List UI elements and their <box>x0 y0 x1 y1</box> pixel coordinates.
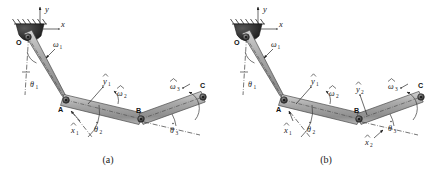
svg-text:θ: θ <box>170 126 174 135</box>
label-x-axis-a: x <box>60 19 65 29</box>
label-y-axis-a: y <box>44 4 49 14</box>
omega1-leader-a <box>46 49 55 58</box>
label-joint-A-a: A <box>58 105 63 114</box>
caption-panel-a: (a) <box>102 154 113 166</box>
label-theta3-b: θ 3 <box>388 121 397 134</box>
svg-text:2: 2 <box>370 142 373 148</box>
mechanism-figure: y x O A B C ω 1 θ 1 y 1 x 1 <box>0 0 436 173</box>
svg-text:y: y <box>102 76 107 86</box>
ground-hatching-b <box>231 19 266 24</box>
caption-panel-b: (b) <box>320 154 332 166</box>
joint-O-a <box>25 34 32 41</box>
label-omegahat2-a: ω 2 <box>117 86 127 99</box>
label-joint-O-b: O <box>234 38 240 47</box>
label-omegahat2-b: ω 2 <box>329 86 339 99</box>
svg-text:ω: ω <box>53 40 59 49</box>
label-joint-A-b: A <box>276 105 281 114</box>
svg-text:θ: θ <box>388 124 392 133</box>
link-2-b <box>279 95 362 125</box>
svg-text:1: 1 <box>76 130 79 136</box>
link-1-b <box>242 30 288 105</box>
svg-text:2: 2 <box>100 129 103 135</box>
svg-text:θ: θ <box>94 125 98 134</box>
joint-A-b <box>281 97 288 104</box>
label-yhat1-b: y 1 <box>310 74 319 87</box>
svg-text:y: y <box>310 76 315 86</box>
label-theta1-a: θ 1 <box>30 80 39 90</box>
label-joint-C-a: C <box>200 81 205 90</box>
svg-text:1: 1 <box>278 44 281 50</box>
yhat1-axis-a <box>88 87 103 104</box>
panel-a: y x O A B C ω 1 θ 1 y 1 x 1 <box>13 4 207 166</box>
svg-text:ω: ω <box>388 82 394 91</box>
svg-text:2: 2 <box>124 93 127 99</box>
svg-text:3: 3 <box>394 128 397 134</box>
theta1-arc-a <box>27 52 36 63</box>
label-theta3-a: θ 3 <box>170 123 179 136</box>
label-omega1-a: ω 1 <box>53 40 63 50</box>
label-joint-C-b: C <box>418 81 423 90</box>
svg-text:1: 1 <box>254 84 257 90</box>
label-omega1-b: ω 1 <box>271 40 281 50</box>
omega1-leader-b <box>264 49 273 58</box>
joint-O-b <box>243 34 250 41</box>
vertical-reference-b <box>243 38 247 95</box>
theta3-arc-a <box>172 114 176 126</box>
svg-text:1: 1 <box>289 130 292 136</box>
joint-B-b <box>356 116 363 123</box>
joint-C-a <box>200 94 207 101</box>
panel-b: y x O A B C ω 1 θ 1 y 1 x 1 <box>231 4 425 166</box>
xhat1-leader-b <box>289 111 293 121</box>
svg-text:θ: θ <box>307 125 311 134</box>
svg-text:ω: ω <box>117 89 123 98</box>
joint-C-b <box>418 94 425 101</box>
label-x-axis-b: x <box>278 19 283 29</box>
label-xhat1-a: x 1 <box>70 123 79 136</box>
link-2-a <box>61 95 144 125</box>
joint-A-a <box>63 97 70 104</box>
label-yhat1-a: y 1 <box>102 74 111 87</box>
label-theta1-b: θ 1 <box>248 80 257 90</box>
label-theta2-b: θ 2 <box>307 122 316 135</box>
svg-text:2: 2 <box>313 129 316 135</box>
svg-text:3: 3 <box>176 130 179 136</box>
svg-text:ω: ω <box>170 82 176 91</box>
svg-text:1: 1 <box>316 81 319 87</box>
ground-hatching-a <box>13 19 48 24</box>
svg-text:x: x <box>70 125 75 135</box>
svg-text:x: x <box>364 137 369 147</box>
svg-text:1: 1 <box>36 84 39 90</box>
svg-text:θ: θ <box>248 80 252 89</box>
svg-text:ω: ω <box>329 89 335 98</box>
figure-root: y x O A B C ω 1 θ 1 y 1 x 1 <box>0 0 436 173</box>
svg-text:1: 1 <box>108 81 111 87</box>
svg-text:3: 3 <box>177 86 180 92</box>
link-1-a <box>24 30 70 105</box>
label-joint-B-a: B <box>136 106 141 115</box>
label-xhat2-b: x 2 <box>364 135 373 148</box>
svg-text:θ: θ <box>30 80 34 89</box>
label-omegahat3-b: ω 3 <box>388 79 408 92</box>
label-joint-B-b: B <box>354 106 359 115</box>
xhat2-leader-b <box>374 130 383 138</box>
joint-B-a <box>138 116 145 123</box>
svg-text:x: x <box>283 125 288 135</box>
svg-text:ω: ω <box>271 40 277 49</box>
svg-text:2: 2 <box>361 89 364 95</box>
svg-text:1: 1 <box>60 44 63 50</box>
label-theta2-a: θ 2 <box>94 122 103 135</box>
theta1-arc-b <box>245 52 254 63</box>
label-joint-O-a: O <box>16 38 22 47</box>
label-omegahat3-a: ω 3 <box>170 79 190 92</box>
label-yhat2-b: y 2 <box>355 82 364 95</box>
label-xhat1-b: x 1 <box>283 123 292 136</box>
svg-text:3: 3 <box>395 86 398 92</box>
svg-text:y: y <box>355 84 360 94</box>
svg-text:2: 2 <box>336 93 339 99</box>
vertical-reference-a <box>25 38 29 95</box>
label-y-axis-b: y <box>262 4 267 14</box>
